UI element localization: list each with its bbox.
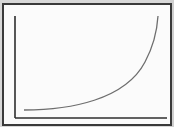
chart-plot [0,0,174,127]
exponential-curve [24,16,158,110]
